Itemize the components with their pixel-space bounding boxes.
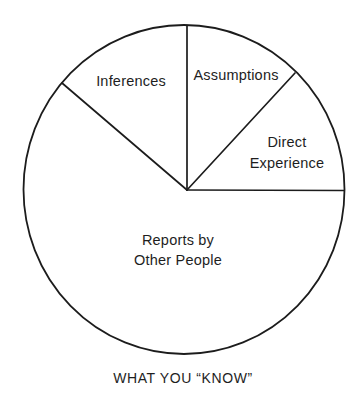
chart-title: WHAT YOU “KNOW” bbox=[113, 370, 253, 386]
slice-label-inferences: Inferences bbox=[96, 73, 166, 89]
slice-label-assumptions: Assumptions bbox=[193, 67, 278, 83]
pie-chart: Inferences Assumptions Direct Experience… bbox=[0, 0, 364, 400]
slice-label-reports-line2: Other People bbox=[134, 252, 222, 268]
slice-label-reports-line1: Reports by bbox=[142, 232, 215, 248]
slice-label-direct-line1: Direct bbox=[267, 134, 306, 150]
slice-label-direct-line2: Experience bbox=[250, 155, 325, 171]
spoke-right bbox=[187, 190, 344, 191]
spoke-upper-right bbox=[187, 73, 295, 190]
spoke-upper-left bbox=[62, 83, 187, 190]
